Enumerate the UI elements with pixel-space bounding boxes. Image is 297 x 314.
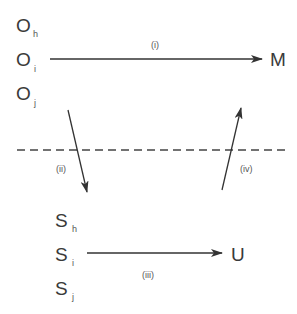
- svg-text:S: S: [55, 244, 68, 265]
- svg-text:i: i: [34, 64, 36, 74]
- svg-text:O: O: [16, 15, 31, 36]
- arrow-i-label: (i): [151, 40, 159, 50]
- node-o-h: O h: [16, 15, 38, 39]
- svg-text:j: j: [33, 98, 36, 108]
- node-o-i: O i: [16, 49, 36, 74]
- svg-text:j: j: [71, 292, 74, 302]
- arrow-iv: [222, 108, 241, 190]
- svg-text:O: O: [16, 49, 31, 70]
- node-o-j: O j: [16, 83, 36, 108]
- arrow-ii: [68, 110, 87, 192]
- svg-text:S: S: [55, 278, 68, 299]
- node-s-i: S i: [55, 244, 74, 268]
- diagram-canvas: O h O i O j (i) M (ii) (iv) S h S i S j …: [0, 0, 297, 314]
- node-s-h: S h: [55, 210, 77, 234]
- svg-text:h: h: [33, 29, 38, 39]
- svg-text:i: i: [72, 258, 74, 268]
- arrow-ii-label: (ii): [56, 164, 66, 174]
- arrow-iii-label: (iii): [142, 270, 154, 280]
- node-m: M: [270, 49, 286, 70]
- arrow-iv-label: (iv): [240, 164, 253, 174]
- node-u: U: [231, 244, 245, 265]
- svg-text:h: h: [72, 224, 77, 234]
- svg-text:S: S: [55, 210, 68, 231]
- node-s-j: S j: [55, 278, 74, 302]
- svg-text:O: O: [16, 83, 31, 104]
